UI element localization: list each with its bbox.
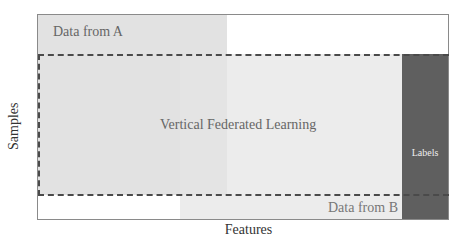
vfl-label: Vertical Federated Learning: [160, 117, 316, 133]
y-axis-label: Samples: [6, 103, 22, 150]
data-a-label: Data from A: [53, 24, 123, 40]
data-b-label: Data from B: [328, 200, 398, 216]
x-axis-label: Features: [0, 222, 467, 238]
labels-label: Labels: [402, 147, 448, 158]
